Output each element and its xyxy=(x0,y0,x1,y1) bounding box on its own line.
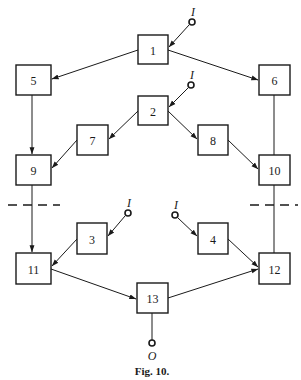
block-5-label: 5 xyxy=(31,74,37,88)
input-terminal-4: I xyxy=(172,198,179,218)
block-11: 11 xyxy=(16,253,51,284)
block-7-label: 7 xyxy=(90,134,96,148)
block-12: 12 xyxy=(259,253,290,284)
block-7: 7 xyxy=(77,125,108,155)
output-label: O xyxy=(148,349,157,363)
input-terminal-circle-icon xyxy=(188,82,194,88)
block-6-label: 6 xyxy=(272,74,278,88)
input-label: I xyxy=(189,68,195,82)
block-10: 10 xyxy=(259,155,290,185)
block-9: 9 xyxy=(16,155,51,185)
input-label: I xyxy=(173,198,179,212)
block-1-label: 1 xyxy=(150,44,156,58)
block-6: 6 xyxy=(259,65,290,95)
output-terminal: O xyxy=(148,340,157,363)
block-12-label: 12 xyxy=(269,263,281,277)
input-lead-1 xyxy=(169,25,189,47)
input-terminal-circle-icon xyxy=(172,212,178,218)
diagram-svg: 12345678910111213 IIIIO Fig. 10. xyxy=(0,0,301,380)
block-13-label: 13 xyxy=(147,292,159,306)
edge-2-to-7 xyxy=(109,111,138,139)
edge-11-to-13 xyxy=(51,269,136,299)
edge-3-to-11 xyxy=(52,239,77,266)
figure-caption: Fig. 10. xyxy=(135,365,170,377)
input-terminal-1: I xyxy=(189,5,196,25)
block-2: 2 xyxy=(138,96,168,125)
input-lead-4 xyxy=(178,218,197,236)
edge-4-to-12 xyxy=(228,239,258,267)
input-terminal-2: I xyxy=(188,68,195,88)
edge-8-to-10 xyxy=(228,140,258,169)
edge-7-to-9 xyxy=(52,140,77,168)
block-11-label: 11 xyxy=(28,263,40,277)
edge-13-to-12 xyxy=(168,269,258,298)
block-1: 1 xyxy=(138,35,168,64)
block-13: 13 xyxy=(137,283,168,313)
block-5: 5 xyxy=(16,65,51,95)
input-terminal-3: I xyxy=(125,196,132,216)
block-8: 8 xyxy=(198,125,228,155)
input-lead-2 xyxy=(169,88,188,107)
block-10-label: 10 xyxy=(269,164,281,178)
input-label: I xyxy=(126,196,132,210)
edge-1-to-6 xyxy=(168,50,258,80)
output-terminal-circle-icon xyxy=(149,340,155,346)
block-3: 3 xyxy=(77,223,107,254)
edge-1-to-5 xyxy=(52,50,138,79)
edge-2-to-8 xyxy=(168,111,197,139)
input-terminal-circle-icon xyxy=(189,19,195,25)
input-lead-3 xyxy=(108,216,125,236)
input-terminal-circle-icon xyxy=(125,210,131,216)
block-2-label: 2 xyxy=(150,105,156,119)
block-9-label: 9 xyxy=(31,164,37,178)
block-4-label: 4 xyxy=(210,233,216,247)
block-3-label: 3 xyxy=(89,233,95,247)
input-label: I xyxy=(190,5,196,19)
block-4: 4 xyxy=(198,223,228,254)
figure-10-block-diagram: 12345678910111213 IIIIO Fig. 10. xyxy=(0,0,301,380)
block-8-label: 8 xyxy=(210,134,216,148)
